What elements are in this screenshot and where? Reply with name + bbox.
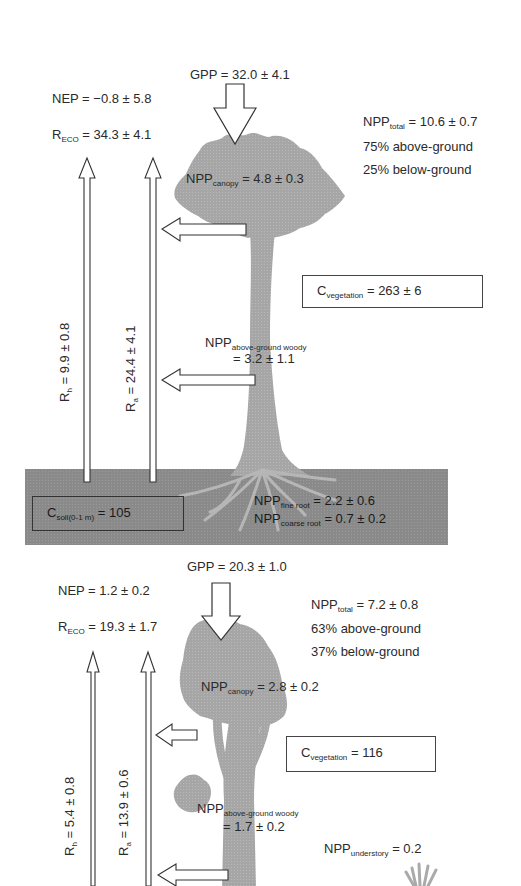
npp-understory-label: NPPunderstory = 0.2 [324,842,421,858]
npp-canopy-label-2: NPPcanopy = 2.8 ± 0.2 [201,680,319,696]
c-soil-label: Csoil(0-1 m) = 105 [47,506,131,522]
below-ground-pct: 25% below-ground [363,163,471,176]
npp-fine-root-label: NPPfine root = 2.2 ± 0.6 [254,494,375,510]
woody-resp-arrow-icon-2 [158,864,228,886]
above-ground-pct: 75% above-ground [363,140,473,153]
gpp-label: GPP = 32.0 ± 4.1 [190,68,290,81]
ra-label: Ra = 24.4 ± 4.1 [124,326,140,412]
npp-woody-value: = 3.2 ± 1.1 [233,352,295,365]
c-vegetation-box: Cvegetation = 263 ± 6 [302,275,483,308]
npp-woody-label-2: NPPabove-ground woody [197,802,298,818]
ra-label-2: Ra = 13.9 ± 0.6 [117,770,133,856]
npp-woody-label: NPPabove-ground woody [205,336,306,352]
ra-arrow-icon-2 [141,652,155,886]
npp-total-label: NPPtotal = 10.6 ± 0.7 [363,115,477,131]
npp-coarse-root-label: NPPcoarse root = 0.7 ± 0.2 [254,512,386,528]
rh-label: Rh = 9.9 ± 0.8 [58,323,74,402]
gpp-label-2: GPP = 20.3 ± 1.0 [187,560,287,573]
c-vegetation-label-2: Cvegetation = 116 [301,746,383,762]
reco-label-2: RECO = 19.3 ± 1.7 [58,620,157,636]
rh-label-2: Rh = 5.4 ± 0.8 [63,777,79,856]
below-ground-pct-2: 37% below-ground [311,645,419,658]
reco-label: RECO = 34.3 ± 4.1 [52,128,151,144]
npp-canopy-label: NPPcanopy = 4.8 ± 0.3 [186,172,304,188]
tree-trunk-2 [222,716,262,886]
above-ground-pct-2: 63% above-ground [311,622,421,635]
npp-total-label-2: NPPtotal = 7.2 ± 0.8 [311,598,418,614]
rh-arrow-icon [79,158,95,482]
nep-label-2: NEP = 1.2 ± 0.2 [58,584,150,597]
ra-arrow-icon [145,158,161,482]
rh-arrow-icon-2 [87,652,99,886]
npp-woody-value-2: = 1.7 ± 0.2 [223,820,285,833]
canopy-resp-arrow-icon-2 [156,724,197,746]
nep-label: NEP = −0.8 ± 5.8 [52,92,151,105]
c-vegetation-box-2: Cvegetation = 116 [286,736,436,772]
woody-resp-arrow-icon [162,369,255,391]
c-vegetation-label: Cvegetation = 263 ± 6 [317,284,421,300]
c-soil-box: Csoil(0-1 m) = 105 [32,496,184,531]
understory-plant-icon [406,864,436,886]
